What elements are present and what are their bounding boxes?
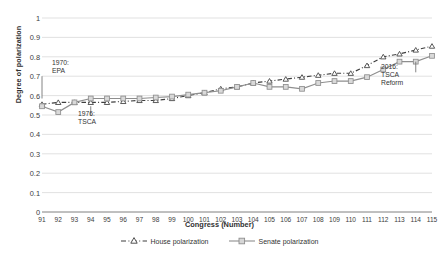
data-point-marker [332,79,337,84]
x-axis-title: Congress (Number) [0,220,439,229]
data-point-marker [88,96,93,101]
data-point-marker [137,96,142,101]
data-point-marker [170,94,175,99]
data-point-marker [365,75,370,80]
gridlines [42,18,432,212]
data-point-marker [251,81,256,86]
data-point-marker [413,48,418,53]
annotation-label-tsca-reform: 2016: TSCA Reform [381,63,403,88]
legend-item-senate[interactable]: Senate polarization [229,236,319,246]
data-point-marker [56,100,61,105]
data-point-marker [300,86,305,91]
data-point-marker [316,81,321,86]
legend-label-house: House polarization [151,238,209,245]
data-point-marker [267,84,272,89]
data-point-marker [186,92,191,97]
data-point-marker [153,95,158,100]
data-point-marker [218,88,223,93]
legend-swatch-house-icon [121,236,147,246]
polarization-line-chart: Degree of polarization 10.90.80.70.60.50… [0,0,439,254]
legend-swatch-senate-icon [229,236,255,246]
data-point-marker [283,84,288,89]
annotation-label-tsca: 1976: TSCA [78,110,96,126]
data-point-marker [105,96,110,101]
data-point-marker [72,100,77,105]
data-point-marker [56,110,61,115]
series-house [39,44,434,107]
data-point-marker [397,51,402,56]
legend-label-senate: Senate polarization [259,238,319,245]
data-point-marker [429,44,434,49]
annotation-label-epa: 1970: EPA [52,59,69,75]
chart-legend: House polarization Senate polarization [0,236,439,246]
data-point-marker [121,96,126,101]
legend-item-house[interactable]: House polarization [121,236,209,246]
data-point-marker [364,63,369,68]
data-point-marker [348,79,353,84]
data-point-marker [40,104,45,109]
data-point-marker [332,71,337,76]
data-point-marker [235,84,240,89]
data-point-marker [202,90,207,95]
data-point-marker [430,53,435,58]
